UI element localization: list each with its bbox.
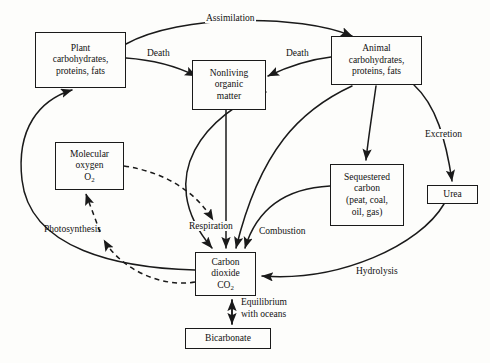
node-co2-subscript: 2 [230, 283, 233, 290]
edge-plant-to-nonliving-death [126, 58, 196, 76]
node-nonliving-line2: organic [215, 79, 243, 89]
node-sequestered-line1: Sequestered [344, 172, 390, 182]
node-oxygen-line2: oxygen [76, 160, 104, 170]
node-animal-line1: Animal [362, 43, 391, 53]
node-sequestered-carbon[interactable]: Sequestered carbon (peat, coal, oil, gas… [330, 164, 404, 226]
edge-label-hydrolysis: Hydrolysis [355, 266, 399, 276]
edge-label-excretion: Excretion [424, 129, 463, 139]
node-plant[interactable]: Plant carbohydrates, proteins, fats [35, 32, 126, 88]
edge-plant-to-animal-assimilation [126, 20, 352, 44]
edge-label-photosynthesis: Photosynthesis [43, 224, 102, 234]
node-carbon-dioxide[interactable]: Carbon dioxide CO2 [195, 252, 256, 296]
node-co2-line2: dioxide [211, 268, 240, 278]
edge-animal-to-sequestered [366, 86, 376, 160]
node-animal-line2: carbohydrates, [349, 55, 405, 65]
node-urea[interactable]: Urea [427, 185, 478, 204]
carbon-cycle-diagram: Plant carbohydrates, proteins, fats Nonl… [0, 0, 490, 363]
node-molecular-oxygen[interactable]: Molecular oxygen O2 [55, 142, 124, 190]
node-plant-line3: proteins, fats [56, 66, 105, 76]
node-sequestered-line4: oil, gas) [352, 207, 383, 217]
node-animal[interactable]: Animal carbohydrates, proteins, fats [331, 36, 422, 85]
node-co2-line1: Carbon [212, 257, 240, 267]
node-bicarbonate-label: Bicarbonate [188, 333, 268, 345]
edge-label-respiration: Respiration [188, 221, 234, 231]
node-sequestered-line2: carbon [354, 183, 380, 193]
node-co2-line3: CO [217, 280, 230, 290]
edge-label-death-left: Death [146, 48, 171, 58]
node-urea-label: Urea [430, 189, 475, 201]
node-sequestered-line3: (peat, coal, [346, 195, 388, 205]
edge-label-equilibrium-line2: with oceans [240, 309, 287, 319]
edge-label-assimilation: Assimilation [205, 13, 256, 23]
node-oxygen-subscript: 2 [91, 175, 94, 182]
node-nonliving-organic-matter[interactable]: Nonliving organic matter [192, 60, 266, 110]
node-oxygen-line1: Molecular [70, 149, 109, 159]
node-plant-line1: Plant [71, 43, 91, 53]
edge-sequestered-to-co2-combustion [245, 186, 330, 248]
node-animal-line3: proteins, fats [352, 66, 401, 76]
edge-oxygen-to-respiration-dashed [124, 166, 213, 220]
edge-label-death-right: Death [285, 48, 310, 58]
node-nonliving-line3: matter [217, 91, 241, 101]
node-bicarbonate[interactable]: Bicarbonate [185, 328, 271, 349]
node-nonliving-line1: Nonliving [210, 68, 249, 78]
edge-label-combustion: Combustion [258, 226, 306, 236]
node-plant-line2: carbohydrates, [53, 54, 109, 64]
edge-label-equilibrium-line1: Equilibrium [240, 297, 288, 307]
edge-animal-to-nonliving-death [268, 57, 331, 76]
